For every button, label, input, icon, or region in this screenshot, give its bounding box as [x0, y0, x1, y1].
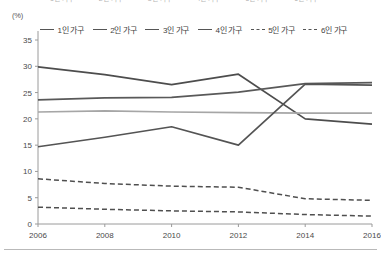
x-axis-ticks: 200620082010201220142016 — [29, 224, 381, 240]
y-tick-label: 20 — [23, 115, 32, 124]
y-tick-label: 5 — [28, 194, 33, 203]
y-tick-label: 15 — [23, 141, 32, 150]
series-line — [38, 111, 372, 113]
x-tick-label: 2012 — [230, 231, 248, 240]
plot-area: 05101520253035 200620082010201220142016 — [0, 0, 381, 259]
x-tick-label: 2008 — [96, 231, 114, 240]
y-tick-label: 25 — [23, 89, 32, 98]
chart-container: 1인 가구 2인 가구 3인 가구 4인 가구 5인 가구 6인 가구 — [0, 0, 381, 259]
series-lines — [38, 67, 372, 216]
y-tick-label: 0 — [28, 220, 33, 229]
y-axis-ticks: 05101520253035 — [23, 36, 38, 229]
chart-svg: 05101520253035 200620082010201220142016 — [0, 0, 381, 259]
x-tick-label: 2006 — [29, 231, 47, 240]
x-tick-label: 2016 — [363, 231, 381, 240]
series-line — [38, 179, 372, 201]
x-tick-label: 2014 — [296, 231, 314, 240]
y-tick-label: 30 — [23, 62, 32, 71]
bottom-divider — [4, 249, 377, 250]
y-tick-label: 10 — [23, 167, 32, 176]
series-line — [38, 207, 372, 216]
series-line — [38, 84, 372, 147]
x-tick-label: 2010 — [163, 231, 181, 240]
y-tick-label: 35 — [23, 36, 32, 45]
